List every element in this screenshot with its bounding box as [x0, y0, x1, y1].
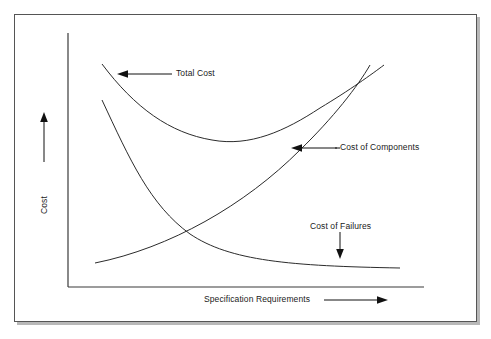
annotation-label-total-cost: Total Cost: [176, 69, 215, 78]
curve-group: [95, 64, 400, 268]
figure-canvas: Total Cost Cost of Components Cost of Fa…: [0, 0, 491, 339]
cost-of-components-arrow-icon: [291, 144, 340, 152]
annotation-label-cost-of-failures: Cost of Failures: [310, 222, 371, 231]
x-axis-label: Specification Requirements: [204, 295, 310, 304]
y-axis-label: Cost: [40, 196, 49, 214]
chart-svg: [0, 0, 491, 339]
x-axis-arrow-icon: [324, 296, 388, 304]
total-cost-arrow-icon: [117, 70, 172, 78]
curve-cost-of-components: [95, 65, 370, 263]
annotation-label-cost-of-components: Cost of Components: [340, 143, 419, 152]
y-axis-arrow-icon: [40, 112, 48, 162]
axis-group: [68, 33, 424, 287]
curve-cost-of-failures: [102, 100, 400, 268]
curve-total-cost: [102, 64, 384, 142]
cost-of-failures-arrow-icon: [336, 232, 344, 259]
